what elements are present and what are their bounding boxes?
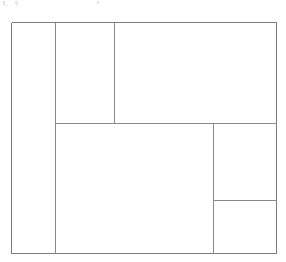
- region-right-middle-fill: [214, 124, 276, 200]
- region-fills: [12, 23, 276, 253]
- region-left-tall-fill: [12, 23, 55, 253]
- region-top-middle-fill: [56, 23, 114, 123]
- rectangle-dissection-diagram: [0, 0, 286, 262]
- region-bottom-center-large-fill: [56, 124, 213, 253]
- region-top-right-large-fill: [115, 23, 276, 123]
- region-bottom-right-small-fill: [214, 201, 276, 253]
- diagram-canvas: [0, 0, 286, 262]
